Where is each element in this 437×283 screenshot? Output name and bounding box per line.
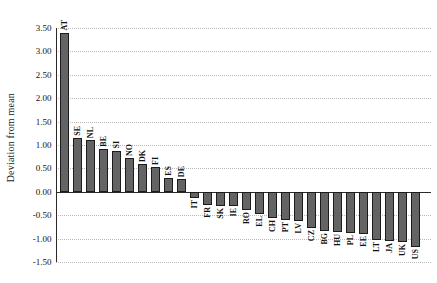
bar-hu <box>333 192 342 232</box>
y-tick-label: -1.50 <box>18 257 52 267</box>
y-tick-label: 0.50 <box>18 163 52 173</box>
gridline <box>56 28 432 29</box>
bar-label-ch: CH <box>268 220 278 232</box>
bar-cz <box>307 192 316 228</box>
y-tick-label: 1.00 <box>18 140 52 150</box>
bar-si <box>112 151 121 192</box>
gridline <box>56 262 432 263</box>
y-axis-line <box>56 28 58 262</box>
bar-dk <box>138 164 147 192</box>
bar-label-uk: UK <box>398 244 408 256</box>
bar-lt <box>372 192 381 240</box>
bar-label-dk: DK <box>138 150 148 162</box>
y-tick-label: 2.50 <box>18 70 52 80</box>
bar-sk <box>216 192 225 206</box>
bar-label-it: IT <box>190 200 200 208</box>
bar-label-es: ES <box>164 166 174 176</box>
bar-nl <box>86 140 95 191</box>
bar-label-de: DE <box>177 166 187 177</box>
gridline <box>56 51 432 52</box>
bar-label-fi: FI <box>151 157 161 165</box>
bar-label-ee: EE <box>359 236 369 247</box>
gridline <box>56 98 432 99</box>
bar-pt <box>281 192 290 220</box>
bar-it <box>190 192 199 198</box>
bar-ro <box>242 192 251 210</box>
bar-label-ja: JA <box>385 243 395 253</box>
gridline <box>56 75 432 76</box>
bar-label-bg: BG <box>320 233 330 245</box>
bar-se <box>73 138 82 192</box>
bar-label-pt: PT <box>281 222 291 232</box>
y-axis-title: Deviation from mean <box>5 93 16 182</box>
bar-label-no: NO <box>125 144 135 156</box>
y-tick-label: 2.00 <box>18 93 52 103</box>
bar-ie <box>229 192 238 207</box>
bar-label-cz: CZ <box>307 230 317 241</box>
bar-fi <box>151 167 160 192</box>
bar-label-se: SE <box>73 126 83 136</box>
bar-lv <box>294 192 303 221</box>
bar-de <box>177 179 186 192</box>
bar-label-sk: SK <box>216 208 226 219</box>
bar-ch <box>268 192 277 219</box>
gridline <box>56 122 432 123</box>
bar-ee <box>359 192 368 234</box>
bar-chart: Deviation from mean 3.503.002.502.001.50… <box>0 0 437 283</box>
y-tick-label: 3.50 <box>18 23 52 33</box>
bar-bg <box>320 192 329 231</box>
y-tick-label: 0.00 <box>18 187 52 197</box>
bar-label-nl: NL <box>86 127 96 138</box>
bar-uk <box>398 192 407 243</box>
bar-label-lt: LT <box>372 242 382 252</box>
bar-label-lv: LV <box>294 223 304 233</box>
bar-ja <box>385 192 394 241</box>
bar-label-be: BE <box>99 136 109 147</box>
bar-fr <box>203 192 212 205</box>
bar-be <box>99 149 108 192</box>
bar-label-el: EL <box>255 216 265 227</box>
bar-es <box>164 178 173 192</box>
y-tick-label: 3.00 <box>18 46 52 56</box>
bar-label-pl: PL <box>346 235 356 245</box>
y-tick-label: -0.50 <box>18 210 52 220</box>
bar-label-at: AT <box>60 20 70 31</box>
y-tick-label: 1.50 <box>18 117 52 127</box>
bar-pl <box>346 192 355 233</box>
bar-label-hu: HU <box>333 234 343 246</box>
bar-el <box>255 192 264 214</box>
y-tick-label: -1.00 <box>18 234 52 244</box>
bar-no <box>125 158 134 192</box>
bar-label-us: US <box>411 249 421 259</box>
bar-label-fr: FR <box>203 207 213 218</box>
bar-label-ie: IE <box>229 208 239 216</box>
bar-label-ro: RO <box>242 212 252 224</box>
bar-us <box>411 192 420 247</box>
bar-at <box>60 33 69 192</box>
bar-label-si: SI <box>112 141 122 149</box>
